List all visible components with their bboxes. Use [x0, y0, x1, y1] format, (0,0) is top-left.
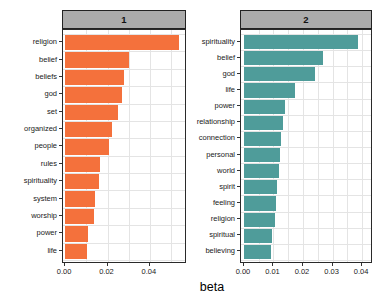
- bar-believing: [244, 245, 271, 259]
- y-axis-label-row: people: [6, 137, 62, 154]
- vertical-gridline: [171, 30, 172, 262]
- bar-spiritual: [244, 229, 272, 243]
- y-axis-label: life: [225, 85, 237, 94]
- y-axis-label-row: belief: [6, 50, 62, 67]
- y-axis-label: beliefs: [35, 72, 59, 81]
- y-axis-label-row: beliefs: [6, 68, 62, 85]
- y-axis-tick: [237, 57, 240, 58]
- y-axis-label: personal: [206, 150, 237, 159]
- y-axis-label-row: spirituality: [6, 172, 62, 189]
- y-axis-label-row: spirit: [186, 178, 240, 194]
- y-axis-label-row: life: [6, 242, 62, 259]
- y-axis-label-row: spiritual: [186, 227, 240, 243]
- y-axis-label: god: [44, 89, 59, 98]
- plot-panel: [62, 29, 186, 263]
- y-axis-tick: [237, 186, 240, 187]
- x-axis-tick-label: 0.00: [57, 267, 72, 276]
- facet-body: spiritualitybeliefgodlifepowerrelationsh…: [186, 29, 372, 263]
- y-axis-tick: [237, 89, 240, 90]
- y-axis-label: rules: [41, 159, 59, 168]
- x-axis-tick: [332, 263, 333, 266]
- y-axis-label-row: belief: [186, 49, 240, 65]
- bar-personal: [244, 148, 280, 162]
- y-axis-tick: [59, 111, 62, 112]
- facet-panel-1: 1religionbeliefbeliefsgodsetorganizedpeo…: [6, 10, 186, 278]
- y-axis-label-row: spirituality: [186, 33, 240, 49]
- bar-god: [65, 87, 122, 102]
- y-axis-label-row: religion: [6, 33, 62, 50]
- y-axis-tick: [237, 121, 240, 122]
- y-axis-label: relationship: [197, 117, 237, 126]
- y-axis-tick: [59, 180, 62, 181]
- y-axis-label-row: power: [186, 98, 240, 114]
- x-axis-tick-label: 0.02: [99, 267, 114, 276]
- bar-worship: [65, 209, 94, 224]
- bar-organized: [65, 122, 112, 137]
- x-axis-tick: [302, 263, 303, 266]
- x-axis: 0.000.020.04: [62, 263, 186, 278]
- x-axis-tick: [107, 263, 108, 266]
- y-axis-label: spirituality: [202, 37, 237, 46]
- y-axis-label: feeling: [213, 198, 237, 207]
- plot-panel: [240, 29, 372, 263]
- bar-power: [65, 226, 88, 241]
- y-axis-label: organized: [24, 124, 59, 133]
- bar-system: [65, 191, 95, 206]
- y-axis-label: people: [34, 141, 59, 150]
- bar-feeling: [244, 196, 276, 210]
- vertical-gridline: [129, 30, 130, 262]
- y-axis-label: religion: [33, 37, 59, 46]
- bar-world: [244, 164, 279, 178]
- y-axis-tick: [237, 105, 240, 106]
- y-axis-tick: [237, 250, 240, 251]
- y-axis-tick: [59, 215, 62, 216]
- y-axis-label-row: god: [6, 85, 62, 102]
- facet-panel-2: 2spiritualitybeliefgodlifepowerrelations…: [186, 10, 372, 278]
- y-axis-label: god: [222, 69, 237, 78]
- y-axis-tick: [59, 76, 62, 77]
- bar-belief: [244, 51, 323, 65]
- y-axis-label-row: believing: [186, 243, 240, 259]
- y-axis-label-row: world: [186, 162, 240, 178]
- y-axis-tick: [237, 170, 240, 171]
- y-axis-tick: [237, 73, 240, 74]
- facet-strip-label: 1: [62, 10, 186, 29]
- y-axis-tick: [237, 154, 240, 155]
- bar-beliefs: [65, 70, 124, 85]
- horizontal-gridline: [241, 260, 371, 261]
- bar-set: [65, 105, 118, 120]
- x-axis-tick: [243, 263, 244, 266]
- bar-god: [244, 67, 315, 81]
- y-axis-tick: [59, 41, 62, 42]
- y-axis-tick: [237, 202, 240, 203]
- x-axis-tick: [64, 263, 65, 266]
- x-axis-title: beta: [0, 280, 380, 294]
- y-axis-label: world: [217, 166, 237, 175]
- y-axis-label-row: god: [186, 65, 240, 81]
- y-axis-label-row: relationship: [186, 114, 240, 130]
- faceted-beta-bar-chart: 1religionbeliefbeliefsgodsetorganizedpeo…: [0, 0, 380, 305]
- facet-strip-label: 2: [240, 10, 372, 29]
- x-axis-tick-label: 0.00: [236, 267, 251, 276]
- y-axis-label: power: [37, 228, 59, 237]
- y-axis-label-row: organized: [6, 120, 62, 137]
- y-axis-label: spirit: [219, 182, 237, 191]
- bar-power: [244, 100, 285, 114]
- bar-religion: [244, 213, 275, 227]
- y-axis-label-row: feeling: [186, 194, 240, 210]
- bar-belief: [65, 52, 129, 67]
- bar-rules: [65, 157, 100, 172]
- y-axis-label: spiritual: [209, 230, 237, 239]
- y-axis-label: belief: [39, 55, 59, 64]
- y-axis-label: connection: [199, 133, 237, 142]
- x-axis-tick-label: 0.04: [354, 267, 369, 276]
- y-axis-tick: [237, 218, 240, 219]
- y-axis-label-row: rules: [6, 155, 62, 172]
- y-axis-tick: [59, 128, 62, 129]
- y-axis-tick: [237, 234, 240, 235]
- facet-body: religionbeliefbeliefsgodsetorganizedpeop…: [6, 29, 186, 263]
- x-axis-tick-label: 0.01: [265, 267, 280, 276]
- x-axis-tick-label: 0.04: [142, 267, 157, 276]
- y-axis-tick: [59, 59, 62, 60]
- y-axis-label-row: life: [186, 81, 240, 97]
